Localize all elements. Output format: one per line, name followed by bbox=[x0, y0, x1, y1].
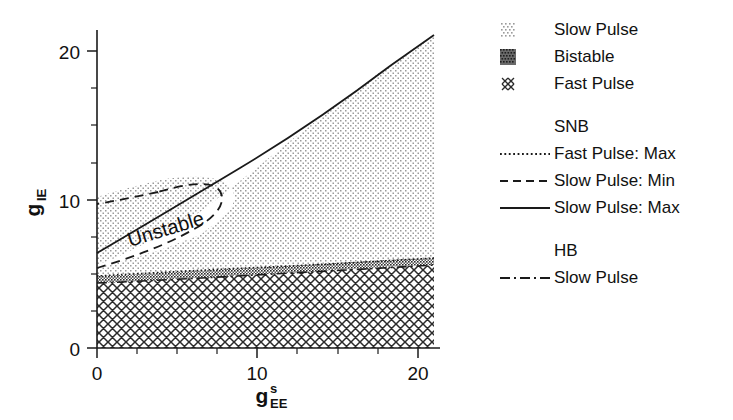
x-ticklabel-10: 10 bbox=[246, 363, 267, 384]
x-axis-title-subscript: EE bbox=[270, 396, 288, 411]
legend-line-solid-cell bbox=[492, 201, 554, 215]
y-axis-title-subscript: IE bbox=[34, 188, 49, 201]
legend-label-snb-fast-pulse-max: Fast Pulse: Max bbox=[554, 145, 676, 162]
legend-label-bistable: Bistable bbox=[554, 48, 614, 65]
legend-label-hb-slow-pulse: Slow Pulse bbox=[554, 269, 638, 286]
dense-dots-swatch-icon bbox=[500, 49, 516, 65]
y-ticklabel-0: 0 bbox=[69, 339, 80, 360]
legend-swatch-bistable-cell bbox=[492, 49, 554, 65]
legend-item-hb-slow-pulse: Slow Pulse bbox=[492, 264, 730, 291]
legend-header-label-hb: HB bbox=[554, 242, 578, 259]
y-ticklabel-20: 20 bbox=[59, 42, 80, 63]
region-fills bbox=[97, 35, 434, 348]
y-axis-major-ticks bbox=[87, 51, 97, 348]
legend-label-snb-slow-pulse-max: Slow Pulse: Max bbox=[554, 199, 680, 216]
legend-group-header-snb: SNB bbox=[492, 113, 730, 140]
light-dots-swatch-icon bbox=[500, 22, 516, 38]
legend-group-header-hb: HB bbox=[492, 237, 730, 264]
legend: Slow Pulse bbox=[492, 16, 730, 291]
legend-item-snb-slow-pulse-max: Slow Pulse: Max bbox=[492, 194, 730, 221]
y-axis-title: g IE bbox=[21, 188, 49, 216]
legend-line-dashdot-cell bbox=[492, 271, 554, 285]
crosshatch-swatch-icon bbox=[500, 76, 516, 92]
x-axis-title-base: g bbox=[256, 384, 269, 407]
legend-line-dashed-cell bbox=[492, 174, 554, 188]
legend-label-snb-slow-pulse-min: Slow Pulse: Min bbox=[554, 172, 675, 189]
phase-diagram-figure: 0 10 20 0 10 20 g IE g s EE Unstable bbox=[0, 0, 733, 420]
plot-svg: 0 10 20 0 10 20 g IE g s EE Unstable bbox=[0, 0, 460, 420]
dash-dot-line-icon bbox=[500, 271, 554, 285]
legend-item-snb-fast-pulse-max: Fast Pulse: Max bbox=[492, 140, 730, 167]
legend-label-slow-pulse: Slow Pulse bbox=[554, 21, 638, 38]
legend-item-bistable: Bistable bbox=[492, 43, 730, 70]
dotted-line-icon bbox=[500, 147, 554, 161]
y-ticklabel-10: 10 bbox=[59, 191, 80, 212]
x-ticklabel-0: 0 bbox=[92, 363, 103, 384]
legend-line-dotted-cell bbox=[492, 147, 554, 161]
legend-item-fast-pulse: Fast Pulse bbox=[492, 70, 730, 97]
legend-item-slow-pulse: Slow Pulse bbox=[492, 16, 730, 43]
x-axis-title-superscript: s bbox=[270, 381, 277, 396]
legend-swatch-fast-pulse-cell bbox=[492, 76, 554, 92]
y-axis-title-base: g bbox=[21, 204, 44, 217]
solid-line-icon bbox=[500, 201, 554, 215]
legend-spacer-1 bbox=[492, 97, 730, 113]
legend-swatch-slow-pulse-cell bbox=[492, 22, 554, 38]
x-ticklabel-20: 20 bbox=[407, 363, 428, 384]
plot-area: 0 10 20 0 10 20 g IE g s EE Unstable bbox=[0, 0, 460, 420]
legend-item-snb-slow-pulse-min: Slow Pulse: Min bbox=[492, 167, 730, 194]
dashed-line-icon bbox=[500, 174, 554, 188]
legend-header-label-snb: SNB bbox=[554, 118, 589, 135]
x-axis-major-ticks bbox=[97, 348, 418, 358]
legend-label-fast-pulse: Fast Pulse bbox=[554, 75, 634, 92]
legend-spacer-2 bbox=[492, 221, 730, 237]
x-axis-title: g s EE bbox=[256, 381, 288, 411]
